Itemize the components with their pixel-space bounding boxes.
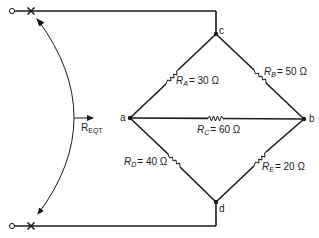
arrowhead-top-icon bbox=[36, 18, 45, 26]
bottom-terminal bbox=[9, 202, 216, 230]
resistor-ra: RA= 30 Ω bbox=[130, 34, 219, 118]
node-b-label: b bbox=[309, 113, 315, 124]
terminal-circle-icon bbox=[9, 223, 14, 228]
resistor-ra-label: RA= 30 Ω bbox=[176, 75, 219, 87]
node-a: a bbox=[120, 112, 132, 123]
resistor-rb: RB= 50 Ω bbox=[216, 34, 307, 119]
resistor-rd-label: RD= 40 Ω bbox=[124, 156, 168, 168]
bridge-circuit-diagram: REQT RA= 30 Ω RB= 50 Ω RC= 60 Ω RD= 40 Ω… bbox=[0, 0, 319, 238]
resistor-re-label: RE= 20 Ω bbox=[262, 161, 305, 173]
equivalent-arc-arrow-icon bbox=[38, 20, 74, 214]
resistor-rc: RC= 60 Ω bbox=[130, 116, 304, 136]
node-b: b bbox=[302, 113, 315, 124]
node-c-label: c bbox=[219, 25, 224, 36]
node-a-label: a bbox=[120, 112, 126, 123]
node-d-label: d bbox=[219, 203, 225, 214]
resistor-rb-label: RB= 50 Ω bbox=[264, 66, 307, 78]
equivalent-resistance-label: REQT bbox=[81, 122, 103, 135]
terminal-circle-icon bbox=[9, 8, 14, 13]
resistor-rc-label: RC= 60 Ω bbox=[197, 124, 241, 136]
